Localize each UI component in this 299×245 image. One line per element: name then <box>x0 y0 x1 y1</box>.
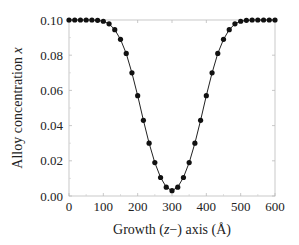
data-point <box>175 185 180 190</box>
data-point <box>141 118 146 123</box>
data-point <box>255 17 260 22</box>
data-series <box>66 17 277 193</box>
data-point <box>89 17 94 22</box>
data-point <box>244 18 249 23</box>
x-tick-label: 400 <box>197 199 217 214</box>
data-point <box>112 27 117 32</box>
chart: 01002003004005006000.000.020.040.060.080… <box>0 0 299 245</box>
data-point <box>101 19 106 24</box>
data-point <box>66 17 71 22</box>
x-tick-label: 300 <box>162 199 182 214</box>
data-point <box>106 21 111 26</box>
data-point <box>181 175 186 180</box>
data-point <box>221 37 226 42</box>
x-tick-label: 0 <box>66 199 73 214</box>
data-point <box>227 27 232 32</box>
data-point <box>169 188 174 193</box>
data-point <box>267 17 272 22</box>
y-axis-label: Alloy concentration x <box>10 47 25 169</box>
data-point <box>198 118 203 123</box>
data-point <box>146 141 151 146</box>
data-point <box>78 17 83 22</box>
data-point <box>192 141 197 146</box>
y-tick-label: 0.08 <box>40 48 63 63</box>
y-tick-label: 0.10 <box>40 13 63 28</box>
y-tick-label: 0.00 <box>40 189 63 204</box>
data-point <box>84 17 89 22</box>
data-point <box>135 93 140 98</box>
y-tick-label: 0.02 <box>40 153 63 168</box>
x-tick-label: 100 <box>94 199 114 214</box>
data-point <box>187 160 192 165</box>
data-point <box>95 18 100 23</box>
x-tick-label: 600 <box>265 199 285 214</box>
data-point <box>164 185 169 190</box>
x-tick-label: 500 <box>231 199 251 214</box>
data-point <box>204 93 209 98</box>
data-point <box>72 17 77 22</box>
data-point <box>238 19 243 24</box>
data-point <box>232 21 237 26</box>
series-line <box>69 20 275 191</box>
x-axis-label: Growth (z−) axis (Å) <box>113 222 231 238</box>
data-point <box>215 51 220 56</box>
plot-frame <box>69 20 275 196</box>
data-point <box>118 37 123 42</box>
y-tick-label: 0.06 <box>40 83 63 98</box>
data-point <box>158 175 163 180</box>
data-point <box>272 17 277 22</box>
data-point <box>124 51 129 56</box>
x-tick-label: 200 <box>128 199 148 214</box>
axis-ticks: 01002003004005006000.000.020.040.060.080… <box>40 13 285 215</box>
data-point <box>261 17 266 22</box>
y-tick-label: 0.04 <box>40 118 63 133</box>
data-point <box>129 70 134 75</box>
data-point <box>249 17 254 22</box>
plot-axes <box>69 20 275 196</box>
data-point <box>209 70 214 75</box>
data-point <box>152 160 157 165</box>
